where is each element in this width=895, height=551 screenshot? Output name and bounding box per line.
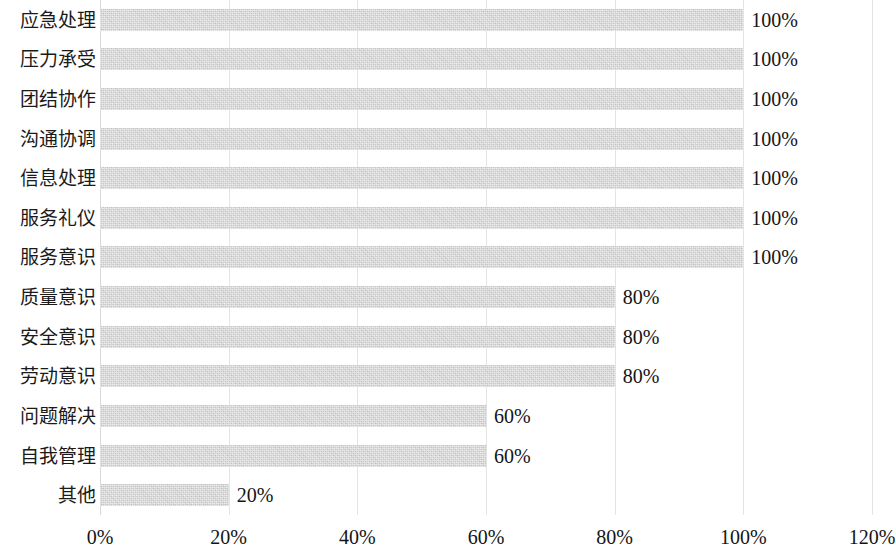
bar [100,128,743,150]
horizontal-bar-chart: 应急处理100%压力承受100%团结协作100%沟通协调100%信息处理100%… [0,0,895,551]
category-label: 服务意识 [20,248,96,267]
bar-row: 应急处理100% [100,0,872,40]
bar-value-label: 100% [751,129,798,149]
bar-value-label: 100% [751,168,798,188]
bar-row: 沟通协调100% [100,119,872,159]
gridline-120pct [872,0,873,515]
category-label: 应急处理 [20,10,96,29]
bar-value-label: 20% [237,485,274,505]
category-label: 问题解决 [20,406,96,425]
x-tick-label: 100% [720,527,767,547]
bar-value-label: 100% [751,49,798,69]
bar [100,286,615,308]
category-label: 质量意识 [20,288,96,307]
bar-value-label: 80% [623,366,660,386]
bar-value-label: 100% [751,89,798,109]
bar [100,246,743,268]
x-axis-tick-labels: 0%20%40%60%80%100%120% [0,515,895,551]
x-tick-label: 60% [468,527,505,547]
category-label: 自我管理 [20,446,96,465]
bar-value-label: 60% [494,446,531,466]
bar-row: 信息处理100% [100,158,872,198]
bar [100,88,743,110]
bar [100,365,615,387]
bar-row: 劳动意识80% [100,357,872,397]
bar-row: 质量意识80% [100,277,872,317]
category-label: 信息处理 [20,169,96,188]
bar [100,484,229,506]
category-label: 劳动意识 [20,367,96,386]
bar-value-label: 100% [751,247,798,267]
bar [100,9,743,31]
bar-row: 服务礼仪100% [100,198,872,238]
bar [100,48,743,70]
bar-value-label: 80% [623,327,660,347]
category-label: 压力承受 [20,50,96,69]
category-label: 安全意识 [20,327,96,346]
x-tick-label: 20% [210,527,247,547]
x-tick-label: 40% [339,527,376,547]
x-tick-label: 0% [87,527,114,547]
bar-row: 安全意识80% [100,317,872,357]
bar-row: 问题解决60% [100,396,872,436]
bar-row: 团结协作100% [100,79,872,119]
category-label: 沟通协调 [20,129,96,148]
bar [100,445,486,467]
plot-area: 应急处理100%压力承受100%团结协作100%沟通协调100%信息处理100%… [100,0,872,515]
category-label: 其他 [58,486,96,505]
bar-value-label: 100% [751,208,798,228]
category-label: 服务礼仪 [20,208,96,227]
bar-row: 自我管理60% [100,436,872,476]
bar-row: 其他20% [100,475,872,515]
bar-value-label: 80% [623,287,660,307]
bar-value-label: 100% [751,10,798,30]
bar-value-label: 60% [494,406,531,426]
bar-row: 压力承受100% [100,40,872,80]
bar [100,326,615,348]
bar [100,207,743,229]
x-tick-label: 80% [596,527,633,547]
bar [100,405,486,427]
bar-row: 服务意识100% [100,238,872,278]
category-label: 团结协作 [20,90,96,109]
x-tick-label: 120% [849,527,895,547]
bar [100,167,743,189]
